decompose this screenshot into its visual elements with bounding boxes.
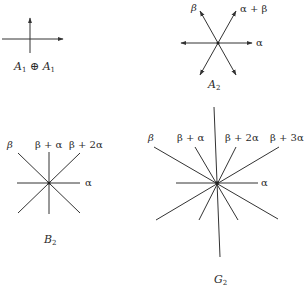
origin-dot	[48, 182, 51, 185]
label-beta-plus-3alpha: β + 3α	[270, 132, 304, 143]
label-alpha: α	[85, 177, 92, 188]
label-beta-plus-alpha: β + α	[177, 132, 205, 143]
diagram-title-b2: B2	[43, 233, 57, 247]
label-alpha: α	[261, 177, 268, 188]
label-beta: β	[190, 2, 197, 13]
label-beta: β	[6, 139, 13, 150]
root-arrow-beta	[200, 11, 218, 43]
label-beta: β	[147, 132, 154, 143]
root-arrow-alpha-plus-beta	[218, 11, 236, 43]
label-alpha: α	[256, 37, 263, 48]
label-beta-plus-2alpha: β + 2α	[225, 132, 259, 143]
diagram-g2: β β + α β + 2α β + 3α α G2	[147, 107, 304, 287]
label-beta-plus-alpha: β + α	[35, 139, 63, 150]
origin-dot	[215, 181, 219, 185]
origin-dot	[217, 42, 220, 45]
diagram-title-a2: A2	[207, 78, 220, 92]
diagram-b2: β β + α β + 2α α B2	[6, 139, 103, 247]
root-arrow-neg-beta	[218, 43, 236, 75]
diagram-a2: β α + β α A2	[181, 2, 267, 92]
root-arrow-neg-alpha-plus-beta	[200, 43, 218, 75]
diagram-title-g2: G2	[214, 273, 227, 287]
diagram-a1-plus-a1: A1 ⊕ A1	[2, 18, 63, 74]
label-alpha-plus-beta: α + β	[240, 3, 267, 14]
diagram-title-a1a1: A1 ⊕ A1	[13, 60, 55, 74]
label-beta-plus-2alpha: β + 2α	[69, 139, 103, 150]
root-systems-figure: A1 ⊕ A1 β α + β α A2 β β + α β + 2α α B2	[0, 0, 304, 292]
